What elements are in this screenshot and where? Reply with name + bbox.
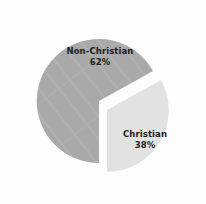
slice-christian: [107, 80, 169, 172]
pie-chart-canvas: [0, 0, 206, 204]
pie-chart: Non-Christian 62% Christian 38%: [0, 0, 206, 204]
slice-non-christian: [0, 0, 206, 204]
